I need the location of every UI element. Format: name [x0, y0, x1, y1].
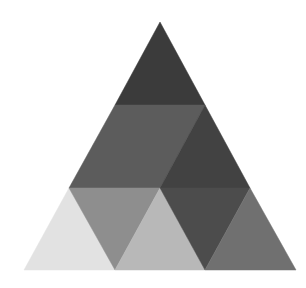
triangle-figure [0, 0, 306, 288]
triangle-diagram [0, 0, 306, 288]
top-triangle [115, 22, 205, 105]
